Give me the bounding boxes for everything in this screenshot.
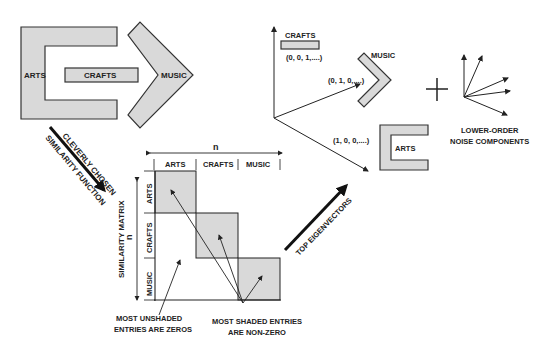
unshaded-note-line2: ENTRIES ARE ZEROS	[114, 325, 192, 334]
top-eigenvectors-arrow: TOP EIGENVECTORS	[285, 186, 354, 257]
row-header-arts: ARTS	[145, 184, 154, 204]
col-header-arts: ARTS	[165, 160, 185, 169]
spectral-clustering-diagram: ARTS CRAFTS MUSIC CLEVERLY CHOSEN SIMILA…	[0, 0, 550, 356]
eigenvector-space: CRAFTS (0, 0, 1,....) MUSIC (0, 1, 0,...…	[274, 27, 428, 171]
noise-label-line1: LOWER-ORDER	[461, 126, 519, 135]
row-header-crafts: CRAFTS	[145, 223, 154, 253]
space-crafts-label: CRAFTS	[285, 31, 315, 40]
shaded-note-line2: ARE NON-ZERO	[228, 328, 286, 337]
crafts-shape-label: CRAFTS	[84, 71, 117, 80]
space-arts-label: ARTS	[395, 144, 415, 153]
noise-components: LOWER-ORDER NOISE COMPONENTS	[426, 55, 529, 146]
block-arts-arts	[155, 171, 196, 213]
space-music-vector: (0, 1, 0,....)	[328, 76, 365, 85]
eigenvectors-label: TOP EIGENVECTORS	[294, 196, 354, 257]
similarity-function-arrow: CLEVERLY CHOSEN SIMILARITY FUNCTION	[43, 127, 117, 207]
space-music-label: MUSIC	[371, 51, 396, 60]
space-crafts-shape	[281, 41, 319, 49]
noise-label-line2: NOISE COMPONENTS	[450, 137, 529, 146]
col-header-crafts: CRAFTS	[203, 160, 233, 169]
space-crafts-vector: (0, 0, 1,....)	[286, 53, 323, 62]
similarity-matrix: n ARTS CRAFTS MUSIC ARTS CRAFTS MUSIC n …	[114, 142, 302, 337]
row-header-music: MUSIC	[145, 271, 154, 296]
block-crafts-crafts	[196, 213, 238, 258]
music-shape-label: MUSIC	[161, 71, 187, 80]
shaded-note-line1: MOST SHADED ENTRIES	[212, 317, 302, 326]
input-shapes: ARTS CRAFTS MUSIC	[21, 22, 193, 128]
matrix-title: SIMILARITY MATRIX	[117, 200, 126, 278]
space-arts-vector: (1, 0, 0,....)	[333, 136, 370, 145]
unshaded-note-line1: MOST UNSHADED	[116, 314, 183, 323]
matrix-n-top: n	[213, 142, 219, 152]
arts-shape-label: ARTS	[24, 71, 46, 80]
block-music-music	[238, 258, 280, 300]
col-header-music: MUSIC	[246, 160, 271, 169]
